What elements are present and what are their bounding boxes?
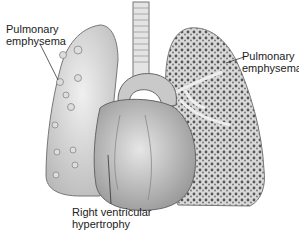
label-right-emphysema: Pulmonary emphysema <box>242 50 299 74</box>
leader-left-lung <box>40 44 58 80</box>
label-line: Pulmonary <box>242 50 299 62</box>
label-line: Pulmonary <box>6 23 66 35</box>
label-line: emphysema <box>242 62 299 74</box>
label-line: hypertrophy <box>72 218 151 230</box>
label-left-emphysema: Pulmonary emphysema <box>6 23 66 47</box>
label-right-ventricular-hypertrophy: Right ventricular hypertrophy <box>72 206 151 230</box>
label-line: Right ventricular <box>72 206 151 218</box>
label-line: emphysema <box>6 35 66 47</box>
